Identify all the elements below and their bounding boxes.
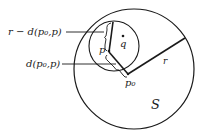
point-q (122, 35, 125, 38)
label-r: r (163, 56, 168, 66)
point-p0 (127, 73, 129, 75)
p-to-edge-line (109, 22, 113, 52)
small-circle (89, 21, 139, 71)
brace-d (106, 55, 127, 77)
label-r-minus-d: r − d(p₀,p) (8, 26, 62, 37)
point-p (108, 50, 111, 53)
label-S: S (151, 97, 160, 112)
label-q: q (120, 38, 126, 49)
big-circle-S (74, 9, 194, 129)
diagram: r − d(p₀,p) d(p₀,p) p q p₀ r S (0, 0, 204, 133)
label-p: p (99, 44, 106, 55)
label-p0: p₀ (125, 77, 135, 88)
label-d: d(p₀,p) (26, 58, 60, 69)
